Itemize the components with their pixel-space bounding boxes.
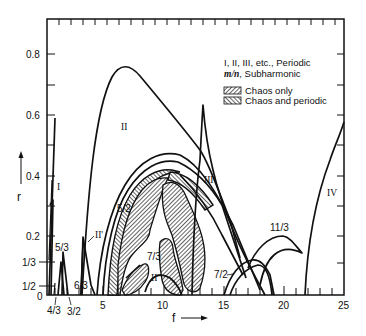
up-arrow-icon xyxy=(19,151,24,158)
x-tick-20: 20 xyxy=(278,300,290,311)
y-tick-1-3: 1/3 xyxy=(22,257,36,268)
legend-chaos-periodic: Chaos and periodic xyxy=(245,95,327,106)
label-region-III: III xyxy=(204,175,214,185)
legend-line-1: I, II, III, etc., Periodic xyxy=(224,57,311,68)
right-ticks xyxy=(337,54,344,263)
label-7-3: 7/3 xyxy=(147,251,161,262)
y-tick-labels: 0.8 0.6 0.4 0.2 1/3 1/2 0 xyxy=(22,49,43,302)
x-axis-title: f xyxy=(172,311,208,325)
svg-text:r: r xyxy=(17,190,21,204)
region-IV xyxy=(305,122,344,295)
x-tick-15: 15 xyxy=(218,300,230,311)
phase-diagram-chart: 0.8 0.6 0.4 0.2 1/3 1/2 0 5 10 15 20 25 … xyxy=(0,0,366,336)
legend: I, II, III, etc., Periodic m/n, Subharmo… xyxy=(224,57,327,106)
label-region-I: I xyxy=(57,182,60,192)
y-tick-1-2: 1/2 xyxy=(22,281,36,292)
label-region-II-prime: II' xyxy=(95,230,103,240)
y-tick-0.2: 0.2 xyxy=(26,231,40,242)
x-tick-5: 5 xyxy=(100,300,106,311)
top-ticks xyxy=(59,19,335,25)
chaos-only-swatch xyxy=(224,87,241,94)
label-6-3: 6/3 xyxy=(74,280,88,291)
legend-line-2: m/n, Subharmonic xyxy=(224,68,301,79)
label-region-II: II xyxy=(121,122,127,132)
label-3-2: 3/2 xyxy=(67,306,81,317)
svg-text:f: f xyxy=(172,311,176,325)
y-tick-0: 0 xyxy=(37,291,43,302)
y-tick-0.6: 0.6 xyxy=(26,110,40,121)
y-tick-0.8: 0.8 xyxy=(26,49,40,60)
label-5-2: 5/2 xyxy=(117,203,131,214)
label-11-3: 11/3 xyxy=(270,222,289,233)
right-arrow-icon xyxy=(201,316,208,321)
x-tick-25: 25 xyxy=(338,300,350,311)
label-region-IV: IV xyxy=(327,188,337,198)
x-tick-labels: 5 10 15 20 25 xyxy=(100,300,350,311)
y-tick-0.4: 0.4 xyxy=(26,171,40,182)
y-axis-title: r xyxy=(17,151,24,204)
chaos-periodic-swatch xyxy=(224,97,241,104)
label-5-3: 5/3 xyxy=(55,242,69,253)
label-4-3: 4/3 xyxy=(47,305,61,316)
label-region-II-double-prime: II" xyxy=(151,273,161,283)
x-tick-10: 10 xyxy=(157,300,169,311)
label-7-2: 7/2 xyxy=(214,269,228,280)
